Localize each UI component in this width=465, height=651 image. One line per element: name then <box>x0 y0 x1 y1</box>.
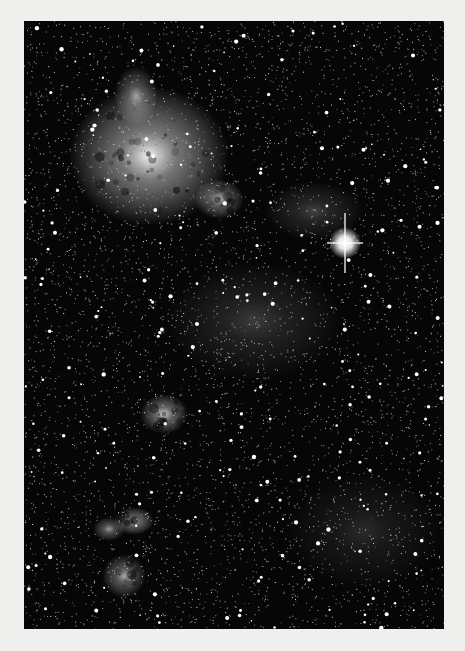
star-field-photo <box>24 21 444 629</box>
starfield-canvas <box>24 21 444 629</box>
